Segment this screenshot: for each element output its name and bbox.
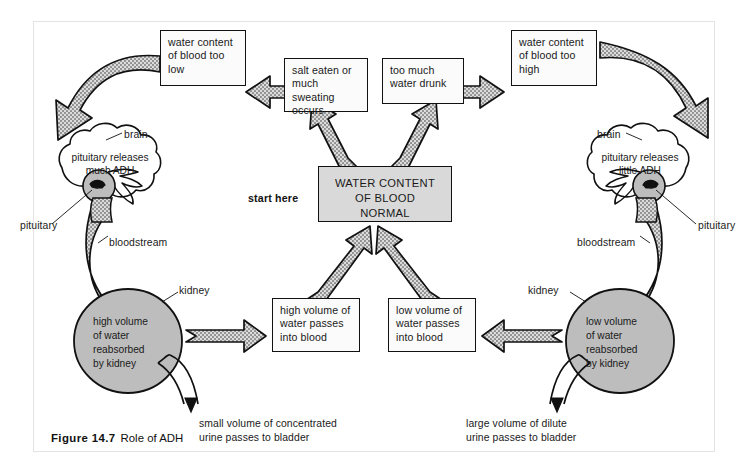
figure-caption: Figure 14.7Role of ADH [51, 432, 183, 444]
left-brain-label: brain [124, 128, 148, 141]
left-bloodstream-label: bloodstream [109, 236, 167, 249]
arrow-toomuch-to-high [462, 76, 504, 108]
right-kidney-label: kidney [528, 284, 559, 297]
right-brain-text-line2: little ADH [619, 165, 661, 176]
right-urine-line-2: urine passes to bladder [466, 432, 576, 443]
box-water-content-normal: WATER CONTENT OF BLOOD NORMAL [318, 166, 452, 222]
right-kidney-line-4: by kidney [586, 358, 629, 369]
arrow-lowvolume-to-center [376, 226, 442, 300]
box-water-content-too-high: water content of blood too high [511, 30, 597, 86]
right-kidney-line-3: reabsorbed [586, 344, 638, 355]
box-high-volume-into-blood: high volume of water passes into blood [272, 298, 360, 352]
right-kidney-text: low volume of water reabsorbed by kidney [586, 315, 666, 371]
right-brain-text-line1: pituitary releases [601, 152, 678, 163]
right-pituitary-label: pituitary [698, 219, 735, 232]
right-kidney-line-1: low volume [586, 316, 637, 327]
right-urine-line-1: large volume of dilute [466, 418, 567, 429]
center-line-1: WATER CONTENT [335, 177, 435, 189]
left-kidney-label: kidney [179, 284, 210, 297]
arrow-kidney-to-lowvolume [482, 320, 562, 352]
left-kidney-line-2: of water [93, 330, 129, 341]
box-too-much-water: too much water drunk [382, 58, 464, 104]
right-kidney-line-2: of water [586, 330, 622, 341]
right-brain-illustration [587, 123, 696, 243]
arrow-center-to-toomuch [390, 100, 438, 168]
left-urine-label: small volume of concentrated urine passe… [199, 417, 337, 445]
left-urine-line-1: small volume of concentrated [199, 418, 337, 429]
left-kidney-text: high volume of water reabsorbed by kidne… [93, 315, 173, 371]
box-low-volume-into-blood: low volume of water passes into blood [388, 298, 476, 352]
arrow-salt-to-low [246, 76, 288, 108]
left-brain-illustration [52, 123, 161, 243]
box-water-content-too-low: water content of blood too low [160, 30, 246, 86]
figure-title: Role of ADH [121, 432, 184, 444]
left-pituitary-label: pituitary [20, 219, 57, 232]
figure-number: Figure 14.7 [51, 432, 116, 444]
left-urine-line-2: urine passes to bladder [199, 432, 309, 443]
arrow-high-to-brain [600, 42, 708, 138]
right-bloodstream-label: bloodstream [577, 236, 635, 249]
center-line-3: NORMAL [360, 207, 410, 219]
arrow-kidney-to-highvolume [186, 320, 266, 352]
right-brain-label: brain [597, 128, 621, 141]
figure-page: water content of blood too low salt eate… [0, 0, 748, 473]
left-brain-text-line1: pituitary releases [71, 152, 148, 163]
left-kidney-line-4: by kidney [93, 358, 136, 369]
left-brain-text: pituitary releases much ADH [58, 152, 162, 177]
right-brain-text: pituitary releases little ADH [588, 152, 692, 177]
start-here-label: start here [248, 192, 298, 204]
arrow-highvolume-to-center [306, 226, 372, 300]
center-line-2: OF BLOOD [355, 192, 415, 204]
left-kidney-line-1: high volume [93, 316, 148, 327]
right-urine-label: large volume of dilute urine passes to b… [466, 417, 576, 445]
left-kidney-line-3: reabsorbed [93, 344, 145, 355]
box-salt-eaten: salt eaten or much sweating occurs [284, 58, 368, 112]
left-brain-text-line2: much ADH [86, 165, 135, 176]
